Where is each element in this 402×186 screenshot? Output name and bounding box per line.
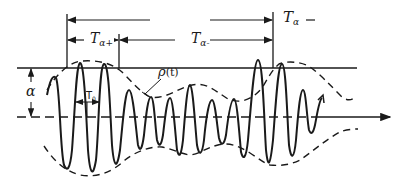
envelope-leader bbox=[145, 79, 161, 94]
period-label-sub: 0 bbox=[92, 95, 96, 102]
t-alpha-minus-main: T bbox=[191, 30, 200, 46]
t-alpha-main: T bbox=[283, 8, 293, 26]
period-label: T0 bbox=[86, 91, 96, 102]
alpha-label: α bbox=[26, 84, 35, 98]
envelope-label: ρ(t) bbox=[158, 65, 179, 78]
t-alpha-plus-label: Tα+ bbox=[89, 31, 114, 48]
envelope-label-arg: (t) bbox=[166, 66, 179, 79]
level-crossing-diagram bbox=[0, 0, 402, 186]
signal-waveform bbox=[47, 60, 322, 171]
envelope-label-main: ρ bbox=[158, 64, 166, 79]
t-alpha-sub: α bbox=[293, 17, 299, 27]
t-alpha-minus-label: Tα- bbox=[190, 31, 210, 48]
t-alpha-plus-main: T bbox=[90, 30, 99, 46]
t-alpha-minus-sub: α- bbox=[200, 38, 209, 48]
t-alpha-plus-sub: α+ bbox=[99, 38, 113, 48]
t-alpha-label: Tα bbox=[283, 10, 299, 27]
